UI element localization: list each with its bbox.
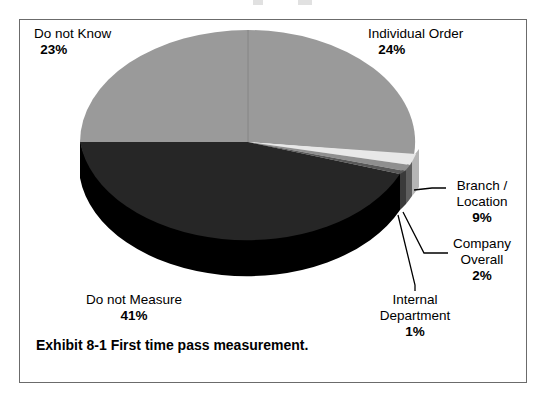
pie-label-branch-location-line2: Location xyxy=(440,194,524,210)
pie-label-do-not-know-percent: 23% xyxy=(34,42,111,58)
pie-label-do-not-measure: Do not Measure 41% xyxy=(66,292,202,324)
pie-label-individual-order-percent: 24% xyxy=(368,42,463,58)
pie-label-internal-department-percent: 1% xyxy=(363,324,467,340)
pie-label-company-overall-line1: Company xyxy=(440,236,524,252)
pie-label-individual-order: Individual Order 24% xyxy=(368,26,463,58)
pie-label-company-overall-line2: Overall xyxy=(440,252,524,268)
pie-label-do-not-know: Do not Know 23% xyxy=(34,26,111,58)
top-edge-artifact-1 xyxy=(253,0,263,5)
top-edge-artifact-2 xyxy=(298,0,312,5)
pie-label-do-not-measure-percent: 41% xyxy=(66,308,202,324)
pie-label-company-overall-percent: 2% xyxy=(440,268,524,284)
pie-label-internal-department-line1: Internal xyxy=(363,292,467,308)
pie-label-branch-location-line1: Branch / xyxy=(440,178,524,194)
pie-label-individual-order-text: Individual Order xyxy=(368,26,463,42)
pie-label-company-overall: Company Overall 2% xyxy=(440,236,524,284)
pie-label-do-not-know-text: Do not Know xyxy=(34,26,111,42)
pie-label-internal-department: Internal Department 1% xyxy=(363,292,467,340)
pie-label-do-not-measure-text: Do not Measure xyxy=(66,292,202,308)
pie-label-branch-location: Branch / Location 9% xyxy=(440,178,524,226)
pie-label-branch-location-percent: 9% xyxy=(440,210,524,226)
figure-caption: Exhibit 8-1 First time pass measurement. xyxy=(36,337,308,353)
pie-label-internal-department-line2: Department xyxy=(363,308,467,324)
